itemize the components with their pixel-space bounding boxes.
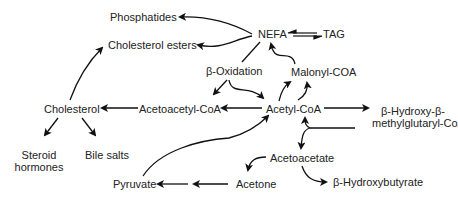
arrow-acetoacetate-hydroxybutyrate xyxy=(302,166,326,182)
arrow-nefa-cholesterol-esters xyxy=(198,36,252,46)
line-nefa-beta-oxidation xyxy=(242,42,260,62)
arrow-nefa-phosphatides xyxy=(180,17,252,34)
arrow-betaox-acetyl xyxy=(229,80,263,98)
arrow-cholesterol-esters xyxy=(70,48,102,100)
node-hmg-coa-line2: methylglutaryl-CoA xyxy=(372,117,454,129)
arrow-acetyl-malonyl-1 xyxy=(279,82,290,101)
node-pyruvate: Pyruvate xyxy=(113,178,156,190)
arrow-acetoacetate-acetone xyxy=(248,157,266,170)
node-steroid-hormones-line2: hormones xyxy=(14,161,64,173)
node-cholesterol-esters: Cholesterol esters xyxy=(108,39,197,51)
node-nefa: NEFA xyxy=(258,28,287,40)
node-hmg-coa-line1: β-Hydroxy-β- xyxy=(372,105,454,117)
arrow-cholesterol-bile xyxy=(82,118,95,135)
reversible-arrow-nefa-tag xyxy=(288,30,322,39)
arrow-acetyl-malonyl-2 xyxy=(298,83,307,100)
pathway-arrows xyxy=(0,0,458,197)
arrow-malonyl-nefa xyxy=(271,44,295,64)
node-steroid-hormones: Steroid hormones xyxy=(14,149,64,173)
node-steroid-hormones-line1: Steroid xyxy=(14,149,64,161)
node-phosphatides: Phosphatides xyxy=(110,11,177,23)
node-hmg-coa: β-Hydroxy-β- methylglutaryl-CoA xyxy=(372,105,454,129)
node-cholesterol: Cholesterol xyxy=(44,103,100,115)
node-acetoacetyl-coa: Acetoacetyl-CoA xyxy=(139,103,221,115)
node-bile-salts: Bile salts xyxy=(85,149,129,161)
node-beta-hydroxybutyrate: β-Hydroxybutyrate xyxy=(333,176,423,188)
node-acetoacetate: Acetoacetate xyxy=(270,152,334,164)
arrow-cholesterol-steroid xyxy=(45,118,58,135)
node-beta-oxidation: β-Oxidation xyxy=(206,65,262,77)
node-acetyl-coa: Acetyl-CoA xyxy=(266,103,321,115)
arrow-hmg-acetyl xyxy=(305,118,310,128)
arrow-hmg-acetoacetate xyxy=(301,128,310,148)
node-tag: TAG xyxy=(323,28,345,40)
node-malonyl-coa: Malonyl-COA xyxy=(291,66,356,78)
node-acetone: Acetone xyxy=(236,178,276,190)
arrow-betaox-acetoacetyl xyxy=(214,80,227,94)
